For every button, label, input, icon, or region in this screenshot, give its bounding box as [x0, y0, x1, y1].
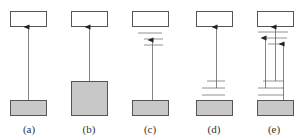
top-box: [197, 12, 233, 27]
top-box: [133, 12, 169, 27]
panel-a: (a): [11, 12, 47, 137]
panel-b: (b): [72, 12, 108, 137]
bottom-box: [258, 101, 294, 116]
bottom-box: [197, 101, 233, 116]
bottom-box: [133, 101, 169, 116]
panel-e: (e): [258, 12, 294, 137]
top-box: [11, 12, 47, 27]
panel-label: (a): [23, 123, 36, 136]
panel-label: (c): [144, 123, 157, 136]
panel-label: (d): [208, 123, 221, 136]
top-box: [258, 12, 294, 27]
diagram-canvas: (a) (b) (c) (d): [0, 0, 297, 140]
panel-label: (b): [83, 123, 96, 136]
top-box: [72, 12, 108, 27]
bottom-box: [11, 101, 47, 116]
bottom-box-large: [72, 82, 108, 116]
panel-label: (e): [268, 123, 281, 136]
panel-d: (d): [197, 12, 233, 137]
panel-c: (c): [133, 12, 169, 137]
